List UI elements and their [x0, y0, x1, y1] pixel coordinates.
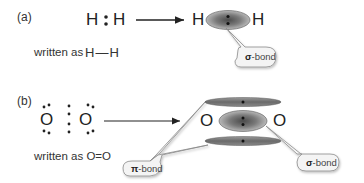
orbital-a-left-atom: H: [192, 10, 204, 30]
lewis-shared-pairs: [68, 105, 71, 134]
pi-orbital-bottom: [205, 137, 281, 146]
sigma-orbital-a: [206, 11, 250, 30]
part-b-label: (b): [17, 94, 32, 108]
part-a-label: (a): [17, 10, 32, 24]
sigma-orbital-b: [219, 111, 267, 132]
lewis-b-right-atom: O: [79, 110, 92, 130]
sigma-bond-label-b: σ-bond: [306, 157, 337, 168]
pi-bond-text: -bond: [138, 163, 162, 174]
orbital-b-right-atom: O: [273, 111, 286, 131]
lewis-bond-pair-a: [104, 15, 108, 26]
sigma-bond-label-a: σ-bond: [245, 51, 276, 62]
sigma-bond-text-b: -bond: [313, 157, 337, 168]
written-as-a-formula: H—H: [85, 45, 120, 60]
orbital-a-right-atom: H: [252, 10, 264, 30]
orbital-b-left-atom: O: [200, 111, 213, 131]
written-as-a-prefix: written as: [34, 46, 83, 58]
lewis-b-left-atom: O: [40, 110, 53, 130]
lewis-a-left-atom: H: [86, 10, 98, 30]
sigma-bond-text: -bond: [252, 51, 276, 62]
pi-orbital-top: [205, 98, 281, 107]
pi-bond-label-b: π-bond: [131, 163, 163, 174]
written-as-b: written as O=O: [34, 150, 111, 162]
lewis-a-right-atom: H: [113, 10, 125, 30]
